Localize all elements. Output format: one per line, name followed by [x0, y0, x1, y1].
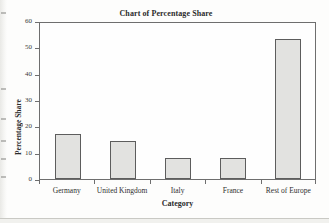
scan-speck [1, 118, 6, 120]
chart-title: Chart of Percentage Share [8, 9, 324, 18]
x-tick-label-group: GermanyUnited KingdomItalyFranceRest of … [39, 186, 316, 195]
scan-speck [1, 88, 6, 90]
scan-edge-artifact [0, 0, 7, 223]
bar-group [40, 23, 315, 179]
bar-slot [205, 23, 260, 179]
x-tick-label: Germany [39, 186, 94, 195]
y-tick-label: 50 [12, 43, 32, 51]
bar-slot [40, 23, 95, 179]
x-tick-slot [150, 180, 205, 184]
y-tick-label: 30 [12, 96, 32, 104]
x-tick-mark [94, 180, 95, 184]
bar [165, 158, 191, 179]
y-axis: Percentage Share 0102030405060 [8, 22, 39, 180]
x-tick-label: Rest of Europe [261, 186, 316, 195]
bar [220, 158, 246, 179]
x-tick-slot [39, 180, 94, 184]
scan-speck [1, 176, 6, 178]
x-tick-label: France [205, 186, 260, 195]
x-tick-label: United Kingdom [94, 186, 149, 195]
scan-speck [1, 12, 6, 14]
x-tick-label: Italy [150, 186, 205, 195]
x-tick-mark [261, 180, 262, 184]
x-axis: GermanyUnited KingdomItalyFranceRest of … [39, 180, 316, 210]
x-tick-mark [205, 180, 206, 184]
y-tick-label: 10 [12, 149, 32, 157]
scan-speck [1, 158, 6, 160]
bar-slot [95, 23, 150, 179]
bar [275, 39, 301, 179]
bar [110, 141, 136, 179]
y-tick-label: 40 [12, 70, 32, 78]
scan-bottom-rule [0, 218, 329, 219]
scan-bottom-band [0, 219, 329, 223]
x-tick-mark [39, 180, 40, 184]
x-tick-slot [94, 180, 149, 184]
y-tick-label: 0 [12, 175, 32, 183]
bar-chart: Chart of Percentage Share Percentage Sha… [8, 3, 324, 216]
bar-slot [150, 23, 205, 179]
bar-slot [260, 23, 315, 179]
y-tick-label: 60 [12, 17, 32, 25]
x-tick-group [39, 180, 316, 184]
x-axis-title: Category [39, 199, 316, 208]
scan-speck [1, 140, 6, 142]
bar [55, 134, 81, 179]
plot-area [39, 22, 316, 180]
x-tick-slot [261, 180, 316, 184]
x-tick-slot [205, 180, 260, 184]
y-tick-label: 20 [12, 122, 32, 130]
x-tick-mark [150, 180, 151, 184]
chart-screenshot: Chart of Percentage Share Percentage Sha… [0, 0, 329, 223]
x-tick-mark [315, 180, 316, 184]
